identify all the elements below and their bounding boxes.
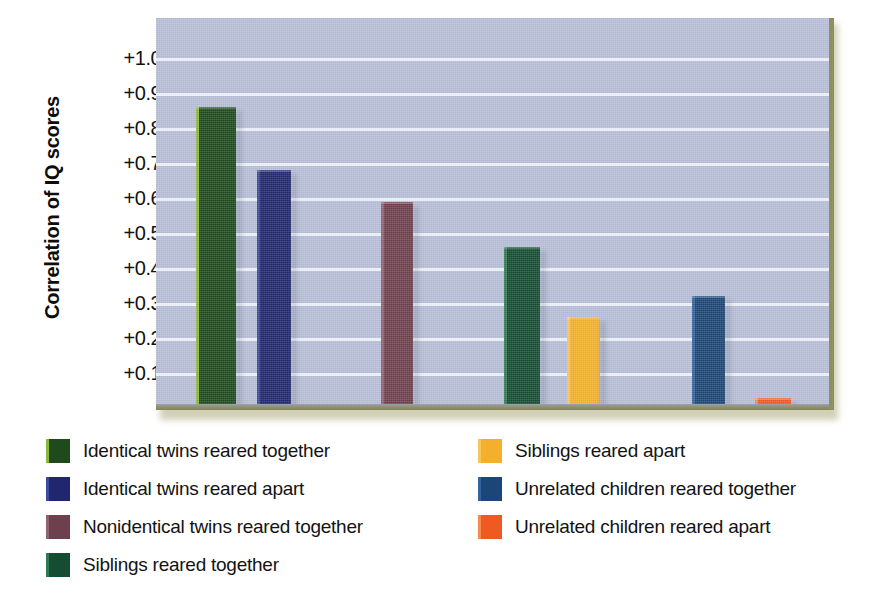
bar-top-cap bbox=[504, 247, 540, 249]
legend-swatch-edge bbox=[478, 439, 481, 463]
bar-edge-highlight bbox=[504, 247, 507, 408]
legend-item: Unrelated children reared apart bbox=[478, 508, 796, 546]
bar-edge-highlight bbox=[381, 202, 384, 409]
legend-item: Unrelated children reared together bbox=[478, 470, 796, 508]
legend-item-label: Identical twins reared apart bbox=[83, 478, 304, 500]
legend-item-label: Siblings reared apart bbox=[515, 440, 685, 462]
bar-drop-shadow bbox=[291, 174, 297, 408]
bar bbox=[196, 107, 236, 408]
legend-color-swatch bbox=[478, 515, 502, 539]
legend-color-swatch bbox=[46, 477, 70, 501]
legend-swatch-edge bbox=[46, 477, 49, 501]
bar-top-cap bbox=[567, 317, 600, 319]
legend-color-swatch bbox=[46, 553, 70, 577]
legend-item-label: Unrelated children reared together bbox=[515, 478, 796, 500]
plot-area bbox=[156, 18, 834, 410]
legend-swatch-edge bbox=[46, 553, 49, 577]
legend-color-swatch bbox=[478, 439, 502, 463]
legend-item: Siblings reared together bbox=[46, 546, 363, 584]
bar bbox=[381, 202, 413, 409]
bar bbox=[504, 247, 540, 408]
bar-top-cap bbox=[196, 107, 236, 109]
bar-top-cap bbox=[257, 170, 291, 172]
bar bbox=[257, 170, 291, 408]
legend-swatch-edge bbox=[478, 477, 481, 501]
legend-swatch-edge bbox=[46, 515, 49, 539]
gridline bbox=[156, 163, 829, 166]
gridline bbox=[156, 58, 829, 61]
iq-correlation-bar-chart: Correlation of IQ scores +1.00+0.90+0.80… bbox=[0, 0, 887, 603]
bar-top-cap bbox=[381, 202, 413, 204]
legend-item: Nonidentical twins reared together bbox=[46, 508, 363, 546]
bar-edge-highlight bbox=[567, 317, 570, 408]
x-axis-baseline bbox=[156, 404, 829, 410]
bar-drop-shadow bbox=[413, 206, 419, 409]
legend-item-label: Identical twins reared together bbox=[83, 440, 330, 462]
legend-item-label: Unrelated children reared apart bbox=[515, 516, 770, 538]
legend-swatch-edge bbox=[478, 515, 481, 539]
legend-item-label: Siblings reared together bbox=[83, 554, 279, 576]
gridline bbox=[156, 93, 829, 96]
bar-drop-shadow bbox=[600, 321, 606, 408]
bar bbox=[567, 317, 600, 408]
y-axis-title: Correlation of IQ scores bbox=[41, 58, 64, 358]
legend-item: Siblings reared apart bbox=[478, 432, 796, 470]
legend-item: Identical twins reared apart bbox=[46, 470, 363, 508]
legend-column-left: Identical twins reared togetherIdentical… bbox=[46, 432, 363, 584]
bar-drop-shadow bbox=[540, 251, 546, 408]
bar-drop-shadow bbox=[236, 111, 242, 408]
gridline bbox=[156, 128, 829, 131]
legend-item: Identical twins reared together bbox=[46, 432, 363, 470]
legend-color-swatch bbox=[478, 477, 502, 501]
bar-edge-highlight bbox=[692, 296, 695, 408]
bar bbox=[692, 296, 725, 408]
legend-swatch-edge bbox=[46, 439, 49, 463]
legend-color-swatch bbox=[46, 439, 70, 463]
bar-top-cap bbox=[692, 296, 725, 298]
legend-column-right: Siblings reared apartUnrelated children … bbox=[478, 432, 796, 546]
legend-item-label: Nonidentical twins reared together bbox=[83, 516, 363, 538]
bar-edge-highlight bbox=[257, 170, 260, 408]
bar-edge-highlight bbox=[196, 107, 199, 408]
bar-drop-shadow bbox=[725, 300, 731, 408]
legend-color-swatch bbox=[46, 515, 70, 539]
bar-top-cap bbox=[755, 398, 791, 400]
chart-legend: Identical twins reared togetherIdentical… bbox=[0, 432, 887, 603]
